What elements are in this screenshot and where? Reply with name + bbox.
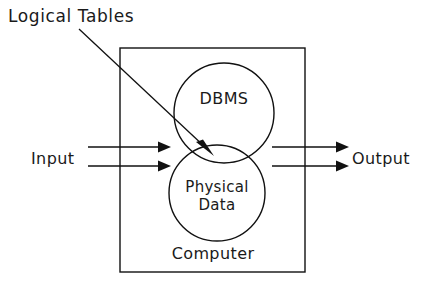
output-arrow-upper [272, 142, 349, 153]
arrow-right-icon [336, 142, 349, 153]
physical-data-label-line2: Data [198, 196, 235, 214]
input-arrow-upper [88, 142, 171, 153]
output-arrow-lower [272, 161, 349, 172]
arrow-pointer-icon [196, 140, 214, 157]
diagram-canvas: Logical Tables Input Output DBMS Physica… [0, 0, 421, 291]
database-architecture-diagram: Logical Tables Input Output DBMS Physica… [0, 0, 421, 291]
logical-tables-label: Logical Tables [8, 6, 134, 26]
physical-data-label-line1: Physical [185, 178, 248, 196]
arrow-right-icon [336, 161, 349, 172]
output-label: Output [352, 149, 410, 168]
dbms-circle [174, 63, 274, 163]
arrow-right-icon [158, 161, 171, 172]
input-arrow-lower [88, 161, 171, 172]
dbms-label: DBMS [200, 89, 249, 108]
input-label: Input [31, 149, 74, 168]
computer-label: Computer [172, 244, 255, 263]
arrow-right-icon [158, 142, 171, 153]
computer-boundary-box [120, 48, 305, 272]
